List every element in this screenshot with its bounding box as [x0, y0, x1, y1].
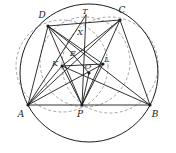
label-E: E: [69, 49, 76, 58]
label-A: A: [17, 109, 25, 119]
geometry-svg: A B C D E K L O P T X: [0, 0, 176, 153]
vertex-dot-A: [26, 103, 29, 106]
label-O: O: [85, 62, 92, 71]
label-X: X: [76, 28, 83, 37]
label-B: B: [151, 109, 159, 119]
vertex-dot-C: [118, 18, 121, 21]
vertex-dot-P: [80, 103, 83, 106]
label-D: D: [37, 10, 45, 20]
vertex-dot-K: [61, 65, 64, 68]
vertex-dot-O: [88, 72, 91, 75]
vertex-dot-B: [148, 103, 151, 106]
label-T: T: [82, 7, 88, 16]
label-K: K: [51, 59, 59, 68]
label-C: C: [119, 5, 126, 15]
label-L: L: [103, 55, 109, 64]
label-P: P: [76, 109, 84, 119]
vertex-dot-D: [46, 24, 49, 27]
geometry-figure: A B C D E K L O P T X: [0, 0, 176, 153]
